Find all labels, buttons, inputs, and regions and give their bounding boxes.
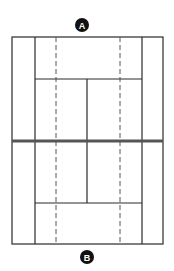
badge-b-label: B [84, 253, 91, 263]
badge-b: B [80, 250, 94, 264]
badge-a: A [75, 18, 89, 32]
badge-a-label: A [79, 21, 86, 31]
tennis-court-diagram: A B [0, 0, 174, 271]
